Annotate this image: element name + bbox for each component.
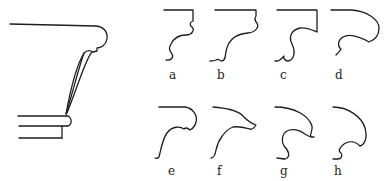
capital-profile: [10, 24, 107, 138]
molding-profiles-diagram: a b c d e f g h: [0, 0, 385, 181]
label-c: c: [280, 68, 287, 82]
profile-h: h: [333, 107, 366, 178]
profile-d: d: [331, 10, 379, 82]
profile-f: f: [211, 107, 256, 178]
label-b: b: [217, 68, 225, 82]
label-e: e: [168, 164, 175, 178]
profile-c: c: [275, 10, 317, 82]
profile-g: g: [275, 107, 314, 178]
label-h: h: [334, 164, 342, 178]
label-a: a: [169, 68, 176, 82]
label-f: f: [217, 164, 223, 178]
profile-e: e: [155, 107, 196, 178]
label-g: g: [280, 164, 288, 178]
profile-a: a: [164, 10, 193, 82]
profile-b: b: [210, 10, 258, 82]
label-d: d: [335, 68, 343, 82]
